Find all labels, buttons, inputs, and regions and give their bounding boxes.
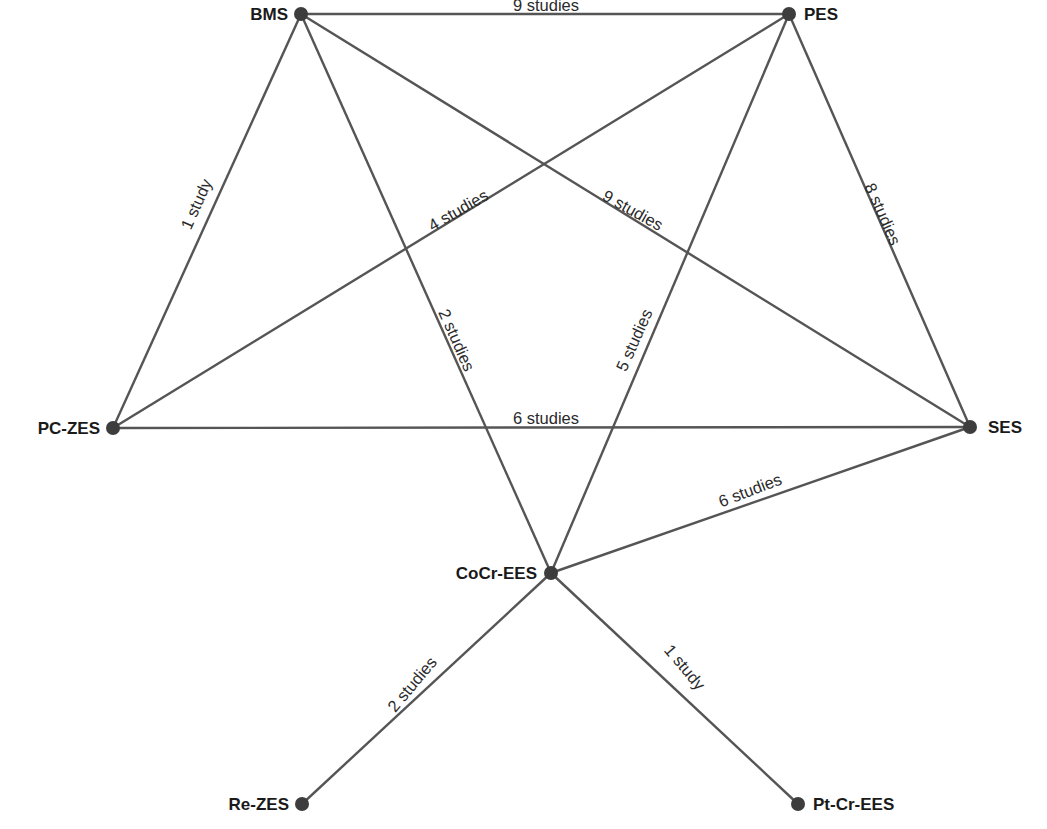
node-bms: BMS [250,5,308,24]
edge-label-pc-zes-ses: 6 studies [513,409,579,427]
node-label: BMS [250,5,288,24]
network-diagram: 9 studies1 study2 studies9 studies4 stud… [0,0,1047,829]
edge-bms-cocr-ees [301,14,551,573]
node-dot-icon [295,797,309,811]
edge-label-cocr-ees-pt-cr-ees: 1 study [661,641,709,694]
node-dot-icon [294,7,308,21]
node-label: PC-ZES [38,419,100,438]
edge-cocr-ees-re-zes [302,573,551,804]
edge-cocr-ees-pt-cr-ees [551,573,798,804]
node-label: Pt-Cr-EES [813,795,894,814]
node-pes: PES [782,5,838,24]
edge-cocr-ees-ses [551,427,970,573]
node-dot-icon [963,420,977,434]
node-dot-icon [544,566,558,580]
node-re-zes: Re-ZES [229,795,309,814]
node-dot-icon [791,797,805,811]
node-label: CoCr-EES [456,564,537,583]
node-pt-cr-ees: Pt-Cr-EES [791,795,894,814]
node-dot-icon [106,421,120,435]
edge-label-bms-pes: 9 studies [513,0,579,14]
node-label: PES [804,5,838,24]
edge-label-bms-ses: 9 studies [600,186,666,234]
edge-bms-pc-zes [113,14,301,428]
edge-pc-zes-ses [113,427,970,428]
edge-label-bms-pc-zes: 1 study [177,175,215,232]
node-label: SES [988,418,1022,437]
node-dot-icon [782,7,796,21]
node-pc-zes: PC-ZES [38,419,120,438]
node-ses: SES [963,418,1022,437]
edge-label-pes-pc-zes: 4 studies [425,186,491,235]
node-label: Re-ZES [229,795,289,814]
edge-labels-group: 9 studies1 study2 studies9 studies4 stud… [177,0,905,715]
edge-label-pes-ses: 8 studies [861,180,904,248]
